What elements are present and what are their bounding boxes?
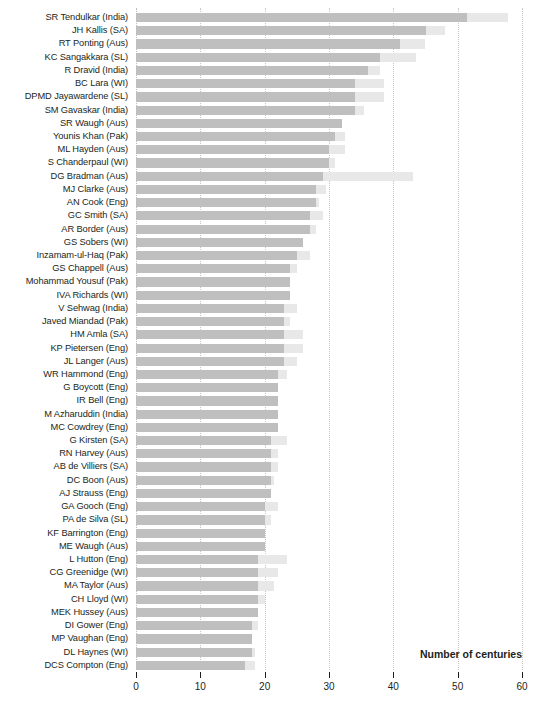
bar-category-label: V Sehwag (India) <box>0 302 128 315</box>
bar-category-label: PA de Silva (SL) <box>0 513 128 526</box>
x-tick-label: 30 <box>309 681 349 692</box>
bar-segment-a <box>136 608 258 617</box>
bar-segment-a <box>136 370 278 379</box>
bar-segment-a <box>136 661 245 670</box>
x-tick-mark <box>458 672 459 678</box>
bar-segment-a <box>136 476 271 485</box>
bar-track <box>136 211 323 220</box>
bar-row: PA de Silva (SL) <box>0 513 538 526</box>
bar-segment-b <box>310 211 323 220</box>
bar-segment-b <box>297 251 310 260</box>
bar-category-label: L Hutton (Eng) <box>0 553 128 566</box>
bar-row: SM Gavaskar (India) <box>0 104 538 117</box>
bar-track <box>136 581 274 590</box>
bar-category-label: MA Taylor (Aus) <box>0 579 128 592</box>
bar-track <box>136 462 278 471</box>
bar-row: ME Waugh (Aus) <box>0 540 538 553</box>
x-tick-mark <box>265 672 266 678</box>
bar-segment-a <box>136 357 284 366</box>
bar-category-label: DG Bradman (Aus) <box>0 170 128 183</box>
bar-segment-a <box>136 106 355 115</box>
bar-segment-a <box>136 489 271 498</box>
bar-segment-a <box>136 436 271 445</box>
bar-row: JL Langer (Aus) <box>0 355 538 368</box>
bar-category-label: AB de Villiers (SA) <box>0 460 128 473</box>
bar-category-label: IVA Richards (WI) <box>0 289 128 302</box>
x-tick-label: 60 <box>502 681 538 692</box>
bar-row: Mohammad Yousuf (Pak) <box>0 275 538 288</box>
bar-track <box>136 158 335 167</box>
bar-track <box>136 26 445 35</box>
bar-track <box>136 13 508 22</box>
bar-segment-b <box>284 357 297 366</box>
bar-track <box>136 542 265 551</box>
bar-category-label: MC Cowdrey (Eng) <box>0 421 128 434</box>
bar-category-label: DPMD Jayawardene (SL) <box>0 90 128 103</box>
bar-category-label: Javed Miandad (Pak) <box>0 315 128 328</box>
bar-row: R Dravid (India) <box>0 64 538 77</box>
bar-segment-a <box>136 542 265 551</box>
bar-row: HM Amla (SA) <box>0 328 538 341</box>
bar-segment-b <box>316 185 326 194</box>
bar-track <box>136 145 345 154</box>
bar-track <box>136 449 278 458</box>
bar-segment-b <box>323 172 413 181</box>
x-tick-label: 10 <box>180 681 220 692</box>
bar-track <box>136 53 416 62</box>
bar-category-label: DC Boon (Aus) <box>0 474 128 487</box>
bar-track <box>136 291 290 300</box>
bar-category-label: SR Tendulkar (India) <box>0 11 128 24</box>
bar-segment-a <box>136 39 400 48</box>
bar-segment-a <box>136 185 316 194</box>
bar-row: IVA Richards (WI) <box>0 289 538 302</box>
bar-category-label: MEK Hussey (Aus) <box>0 606 128 619</box>
bar-row: DPMD Jayawardene (SL) <box>0 90 538 103</box>
bar-track <box>136 555 287 564</box>
bar-category-label: AN Cook (Eng) <box>0 196 128 209</box>
bar-category-label: Inzamam-ul-Haq (Pak) <box>0 249 128 262</box>
bar-segment-a <box>136 158 329 167</box>
bar-segment-b <box>265 502 278 511</box>
bar-segment-a <box>136 264 290 273</box>
bar-category-label: KP Pietersen (Eng) <box>0 342 128 355</box>
bar-segment-a <box>136 383 278 392</box>
bar-row: G Boycott (Eng) <box>0 381 538 394</box>
bar-row: CG Greenidge (WI) <box>0 566 538 579</box>
bar-track <box>136 515 271 524</box>
bar-segment-a <box>136 330 284 339</box>
bar-segment-a <box>136 502 265 511</box>
bar-track <box>136 529 265 538</box>
bar-category-label: JH Kallis (SA) <box>0 24 128 37</box>
bar-row: DI Gower (Eng) <box>0 619 538 632</box>
bar-segment-b <box>355 92 384 101</box>
bar-row: ML Hayden (Aus) <box>0 143 538 156</box>
bar-segment-a <box>136 145 329 154</box>
bar-segment-a <box>136 79 355 88</box>
x-tick-mark <box>329 672 330 678</box>
bar-segment-b <box>329 158 335 167</box>
bar-row: GC Smith (SA) <box>0 209 538 222</box>
bar-segment-a <box>136 595 258 604</box>
bar-track <box>136 106 364 115</box>
bar-segment-a <box>136 423 278 432</box>
bar-category-label: G Kirsten (SA) <box>0 434 128 447</box>
bar-category-label: RN Harvey (Aus) <box>0 447 128 460</box>
bar-category-label: Mohammad Yousuf (Pak) <box>0 275 128 288</box>
bar-category-label: WR Hammond (Eng) <box>0 368 128 381</box>
bar-category-label: M Azharuddin (India) <box>0 408 128 421</box>
bar-segment-b <box>258 555 287 564</box>
bar-segment-a <box>136 396 278 405</box>
bar-segment-a <box>136 238 303 247</box>
bar-track <box>136 370 287 379</box>
bar-segment-b <box>426 26 445 35</box>
bar-segment-a <box>136 648 252 657</box>
bar-row: G Kirsten (SA) <box>0 434 538 447</box>
bar-category-label: ML Hayden (Aus) <box>0 143 128 156</box>
bar-category-label: GA Gooch (Eng) <box>0 500 128 513</box>
bar-segment-a <box>136 277 290 286</box>
bar-category-label: S Chanderpaul (WI) <box>0 156 128 169</box>
x-axis: 0102030405060 <box>0 670 538 706</box>
x-tick-label: 50 <box>438 681 478 692</box>
bar-segment-a <box>136 26 426 35</box>
bar-track <box>136 317 290 326</box>
